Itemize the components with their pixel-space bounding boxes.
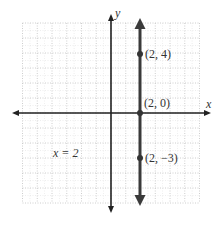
point-label-2-0: (2, 0): [144, 96, 170, 110]
point-2-0: [137, 110, 143, 116]
y-axis-label: y: [114, 6, 121, 20]
y-axis-bottom-arrow-icon: [108, 206, 114, 213]
point-label-2-neg3: (2, −3): [145, 151, 178, 165]
line-top-arrow-icon: [135, 18, 146, 29]
y-axis-top-arrow-icon: [108, 14, 114, 21]
equation-label-text: x = 2: [52, 146, 78, 160]
point-2-neg3: [137, 155, 143, 161]
equation-label: x = 2: [52, 146, 78, 160]
x-axis-label: x: [205, 97, 212, 111]
point-2-4: [137, 51, 143, 57]
coordinate-plane: x y (2, 4) (2, 0) (2, −3) x = 2: [0, 0, 223, 225]
point-label-2-4: (2, 4): [145, 47, 171, 61]
x-axis-left-arrow-icon: [12, 110, 19, 116]
line-bottom-arrow-icon: [135, 195, 146, 206]
